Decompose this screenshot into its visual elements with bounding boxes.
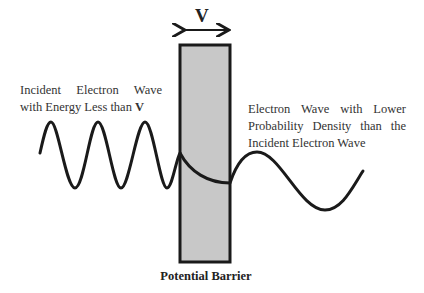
incident-wave-label: Incident Electron Wave with Energy Less … <box>20 82 162 116</box>
transmitted-wave-label: Electron Wave with Lower Probability Den… <box>248 101 406 152</box>
transmitted-label-line3: Incident Electron Wave <box>248 135 406 152</box>
potential-barrier <box>180 45 230 262</box>
incident-wave <box>40 122 180 188</box>
barrier-caption: Potential Barrier <box>148 269 264 284</box>
transmitted-wave <box>230 152 363 210</box>
incident-label-line2: with Energy Less than V <box>20 99 162 116</box>
transmitted-label-line1: Electron Wave with Lower <box>248 101 406 118</box>
incident-label-text: with Energy Less than <box>20 100 135 114</box>
transmitted-label-line2: Probability Density than the <box>248 118 406 135</box>
barrier-height-symbol: V <box>195 5 209 27</box>
incident-label-symbol: V <box>135 100 144 114</box>
incident-label-line1: Incident Electron Wave <box>20 82 162 99</box>
